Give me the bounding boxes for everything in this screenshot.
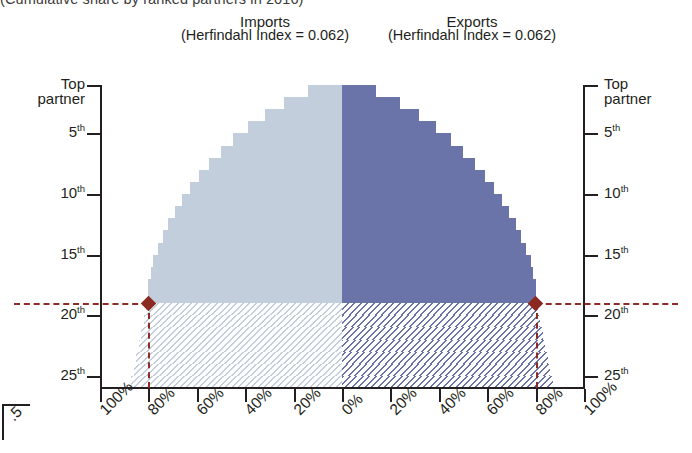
imports-marker-guide-vertical (148, 303, 150, 388)
right-y-label-20: 20th (604, 305, 692, 321)
exports-step-21 (342, 327, 543, 340)
imports-step-3 (265, 109, 342, 122)
left-y-tick-20 (87, 315, 100, 317)
exports-step-4 (342, 121, 436, 134)
left-y-tick-10 (87, 194, 100, 196)
exports-step-8 (342, 170, 485, 183)
exports-step-11 (342, 206, 509, 219)
x-label-100pct-10: 100% (580, 378, 621, 419)
exports-step-3 (342, 109, 419, 122)
imports-marker-guide-horizontal (14, 303, 148, 305)
exports-step-9 (342, 182, 494, 195)
imports-step-11 (175, 206, 342, 219)
left-y-label-20: 20th (0, 305, 85, 321)
exports-step-16 (342, 267, 533, 280)
imports-step-14 (158, 243, 342, 256)
exports-step-23 (342, 352, 548, 365)
imports-step-4 (248, 121, 342, 134)
imports-step-15 (153, 255, 342, 268)
exports-step-19 (342, 303, 538, 316)
left-y-tick-25 (87, 376, 100, 378)
exports-step-7 (342, 158, 475, 171)
left-y-label-25: 25th (0, 366, 85, 382)
imports-step-18 (148, 291, 342, 304)
right-y-tick-20 (585, 315, 598, 317)
imports-step-20 (144, 315, 342, 328)
exports-step-6 (342, 146, 463, 159)
imports-step-13 (163, 230, 342, 243)
imports-step-8 (199, 170, 342, 183)
imports-step-21 (141, 327, 342, 340)
imports-step-24 (134, 364, 342, 377)
imports-step-16 (151, 267, 342, 280)
exports-step-1 (342, 85, 376, 98)
exports-marker-guide-horizontal (536, 303, 678, 305)
exports-step-2 (342, 97, 400, 110)
exports-step-14 (342, 243, 526, 256)
exports-step-13 (342, 230, 521, 243)
imports-step-6 (221, 146, 342, 159)
left-y-label-5: 5th (0, 123, 85, 139)
exports-marker-guide-vertical (536, 303, 538, 388)
exports-step-17 (342, 279, 536, 292)
exports-step-5 (342, 133, 451, 146)
exports-step-22 (342, 340, 545, 353)
right-y-tick-15 (585, 255, 598, 257)
left-axis-spine (100, 85, 102, 389)
imports-step-10 (182, 194, 342, 207)
imports-step-1 (308, 85, 342, 98)
left-y-label-15: 15th (0, 245, 85, 261)
left-y-label-10: 10th (0, 184, 85, 200)
exports-step-12 (342, 218, 516, 231)
exports-step-24 (342, 364, 550, 377)
right-axis-spine (583, 85, 585, 389)
exports-step-10 (342, 194, 502, 207)
imports-step-12 (168, 218, 342, 231)
left-y-label-1: Toppartner (0, 76, 85, 107)
right-y-label-1: Toppartner (604, 76, 692, 107)
imports-step-19 (146, 303, 342, 316)
imports-step-17 (148, 279, 342, 292)
exports-panel-title: Exports (Herfindahl Index = 0.062) (352, 14, 592, 43)
imports-panel-title: Imports (Herfindahl Index = 0.062) (150, 14, 380, 43)
left-y-tick-1 (87, 85, 100, 87)
chart-root: (Cumulative share by ranked partners in … (0, 0, 692, 453)
right-y-label-25: 25th (604, 366, 692, 382)
right-y-tick-10 (585, 194, 598, 196)
imports-step-5 (233, 133, 342, 146)
exports-step-18 (342, 291, 536, 304)
imports-step-7 (209, 158, 342, 171)
exports-step-15 (342, 255, 531, 268)
imports-step-9 (190, 182, 342, 195)
plot-area (100, 85, 584, 388)
exports-step-20 (342, 315, 540, 328)
chart-subtitle: (Cumulative share by ranked partners in … (0, 0, 500, 7)
right-y-tick-5 (585, 133, 598, 135)
right-y-tick-1 (585, 85, 598, 87)
exports-herfindahl-label: (Herfindahl Index = 0.062) (352, 28, 592, 43)
imports-step-23 (136, 352, 342, 365)
left-y-tick-5 (87, 133, 100, 135)
right-y-label-10: 10th (604, 184, 692, 200)
right-y-label-5: 5th (604, 123, 692, 139)
imports-herfindahl-label: (Herfindahl Index = 0.062) (150, 28, 380, 43)
right-y-tick-25 (585, 376, 598, 378)
left-y-tick-15 (87, 255, 100, 257)
imports-step-22 (139, 340, 342, 353)
imports-step-2 (284, 97, 342, 110)
right-y-label-15: 15th (604, 245, 692, 261)
